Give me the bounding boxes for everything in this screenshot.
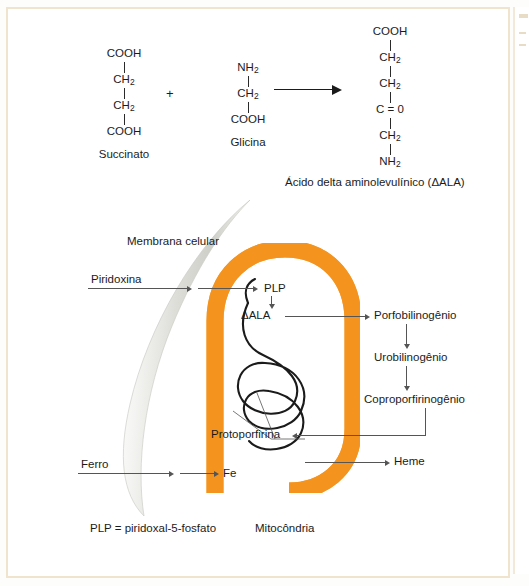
reaction-arrow-icon — [274, 85, 342, 95]
node-fe: Fe — [223, 468, 236, 480]
atom-label: CH2 — [84, 100, 164, 113]
caption-delta-ala: Ácido delta aminolevulínico (ΔALA) — [285, 176, 465, 188]
node-porfobilinogenio: Porfobilinogênio — [374, 310, 456, 322]
arrow-porfobilinogenio-to-urobilinogenio — [403, 324, 410, 350]
bond-line — [248, 102, 249, 113]
bond-line — [390, 144, 391, 155]
bond-line — [124, 88, 125, 99]
atom-label: NH2 — [208, 62, 288, 75]
atom-label: CH2 — [345, 130, 435, 143]
connector-to-heme — [305, 462, 378, 463]
node-urobilinogenio: Urobilinogênio — [374, 352, 448, 364]
arrow-to-porfobilinogenio — [352, 313, 374, 320]
arrow-ferro-to-membrane — [78, 470, 178, 477]
structure-delta-ala: COOH CH2 CH2 C = 0 CH2 NH2 — [345, 26, 435, 169]
label-membrana-celular: Membrana celular — [127, 236, 219, 248]
bond-line — [390, 40, 391, 51]
node-plp: PLP — [264, 283, 286, 295]
structure-name-glicina: Glicina — [208, 136, 288, 148]
node-heme: Heme — [394, 456, 425, 468]
structure-succinato: COOH CH2 CH2 COOH Succinato — [84, 48, 164, 160]
legend-plp: PLP = piridoxal-5-fosfato — [90, 522, 216, 534]
arrow-to-heme — [372, 459, 394, 466]
atom-label: COOH — [345, 26, 435, 39]
page-right-edge — [513, 7, 529, 574]
arrow-piridoxina-to-membrane — [88, 285, 196, 292]
bond-line — [124, 114, 125, 125]
label-piridoxina: Piridoxina — [91, 274, 142, 286]
atom-label: CH2 — [345, 52, 435, 65]
arrow-into-fe — [203, 470, 223, 477]
atom-label: COOH — [84, 126, 164, 139]
arrow-to-protoporfirina — [292, 432, 310, 439]
arrow-plp-to-ala — [268, 296, 275, 310]
atom-label: NH2 — [345, 156, 435, 169]
plus-operator: + — [166, 86, 174, 101]
label-ferro: Ferro — [81, 459, 108, 471]
bond-line — [390, 118, 391, 129]
figure-canvas: COOH CH2 CH2 COOH Succinato + NH2 CH2 CO… — [0, 0, 529, 586]
node-coproporfirinogenio: Coproporfirinogênio — [364, 394, 465, 406]
connector-copro-down — [425, 408, 426, 436]
structure-glicina: NH2 CH2 COOH Glicina — [208, 62, 288, 148]
atom-label: CH2 — [84, 74, 164, 87]
edge-mark-mid — [519, 32, 526, 34]
bond-line — [124, 62, 125, 73]
bond-line — [390, 66, 391, 77]
atom-label: COOH — [208, 114, 288, 127]
node-protoporfirina: Protoporfirina — [211, 429, 280, 441]
node-delta-ala: ΔALA — [241, 310, 270, 322]
bond-line — [390, 92, 391, 103]
label-mitocondria: Mitocôndria — [255, 522, 314, 534]
bond-line — [248, 76, 249, 87]
atom-label: COOH — [84, 48, 164, 61]
arrow-urobilinogenio-to-coproporfirinogenio — [403, 366, 410, 392]
structure-name-succinato: Succinato — [84, 148, 164, 160]
arrow-into-plp — [238, 285, 262, 292]
connector-copro-left — [305, 435, 426, 436]
mitochondria-shape — [185, 243, 360, 493]
edge-mark-low — [519, 44, 526, 46]
atom-label: C = 0 — [345, 104, 435, 117]
edge-mark-top — [519, 14, 528, 18]
connector-ala-to-porfobilinogenio — [285, 316, 358, 317]
atom-label: CH2 — [345, 78, 435, 91]
